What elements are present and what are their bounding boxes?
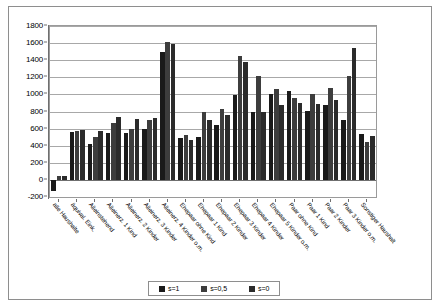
x-axis-category-label: Alleinerz. 2 Kinder (124, 201, 160, 243)
bar (225, 115, 230, 180)
bar (116, 117, 121, 180)
y-axis-tick-mark (44, 178, 47, 179)
bar (75, 131, 80, 180)
y-axis-tick-label: -200 (28, 192, 43, 201)
bar (274, 89, 279, 180)
bar (251, 112, 256, 180)
legend-item[interactable]: s=0,5 (201, 285, 227, 292)
x-axis-tick-mark (221, 199, 222, 202)
bar (147, 120, 152, 180)
bar (261, 112, 266, 180)
bar (160, 52, 165, 180)
bar (310, 94, 315, 180)
legend-swatch-icon (159, 286, 165, 292)
y-axis-tick-label: 400 (30, 140, 43, 149)
x-axis-tick-mark (185, 199, 186, 202)
bar (98, 131, 103, 180)
bar (62, 176, 67, 180)
y-axis-tick-mark (44, 144, 47, 145)
bar (279, 105, 284, 180)
y-axis-tick-mark (44, 76, 47, 77)
y-axis-tick-mark (44, 196, 47, 197)
bar (88, 144, 93, 180)
x-axis-tick-mark (112, 199, 113, 202)
gridline (50, 94, 376, 95)
y-axis-tick-mark (44, 59, 47, 60)
plot-area (49, 25, 377, 198)
y-axis-tick-mark (44, 42, 47, 43)
x-axis-tick-mark (94, 199, 95, 202)
x-axis-tick-mark (275, 199, 276, 202)
chart-legend: s=1s=0,5s=0 (148, 281, 280, 296)
x-axis-tick-mark (312, 199, 313, 202)
bar (93, 137, 98, 180)
x-axis-tick-mark (330, 199, 331, 202)
y-axis-tick-label: 1600 (26, 38, 43, 47)
bar (214, 125, 219, 180)
bar (365, 142, 370, 180)
legend-label: s=0,5 (210, 285, 227, 292)
x-axis-tick-mark (58, 199, 59, 202)
legend-label: s=1 (168, 285, 179, 292)
bar (341, 120, 346, 180)
y-axis-tick-label: 1200 (26, 72, 43, 81)
x-axis-category-label: Ehepaar 2 Kinder (215, 201, 250, 241)
bar (178, 138, 183, 180)
bar (269, 94, 274, 180)
bar (135, 119, 140, 180)
gridline (50, 197, 376, 198)
bar (298, 103, 303, 180)
bar (196, 137, 201, 180)
bar (142, 129, 147, 180)
y-axis-tick-label: 1400 (26, 55, 43, 64)
x-axis-tick-mark (366, 199, 367, 202)
bar (256, 76, 261, 179)
bar (352, 48, 357, 180)
bar (129, 129, 134, 180)
bar (292, 98, 297, 180)
bar (184, 135, 189, 179)
y-axis-tick-mark (44, 25, 47, 26)
bar (106, 133, 111, 180)
x-axis-tick-mark (203, 199, 204, 202)
bar (287, 91, 292, 180)
gridline (50, 77, 376, 78)
bar (70, 132, 75, 180)
chart-frame: 180016001400120010008006004002000-200 al… (8, 6, 432, 300)
legend-item[interactable]: s=1 (159, 285, 179, 292)
bar (233, 95, 238, 180)
bar (238, 56, 243, 180)
bar (189, 140, 194, 180)
bar (328, 88, 333, 179)
bar (323, 105, 328, 180)
y-axis-tick-label: 200 (30, 157, 43, 166)
legend-label: s=0 (258, 285, 269, 292)
legend-swatch-icon (249, 286, 255, 292)
bar (57, 176, 62, 179)
bar (316, 104, 321, 180)
gridline (50, 43, 376, 44)
y-axis-tick-label: 0 (39, 174, 43, 183)
x-axis-tick-mark (239, 199, 240, 202)
y-axis-tick-label: 800 (30, 106, 43, 115)
x-axis-tick-mark (257, 199, 258, 202)
x-axis-tick-mark (294, 199, 295, 202)
legend-item[interactable]: s=0 (249, 285, 269, 292)
y-axis-tick-label: 600 (30, 123, 43, 132)
bar (334, 100, 339, 180)
y-axis-tick-label: 1800 (26, 21, 43, 30)
bar (51, 180, 56, 191)
y-axis-tick-mark (44, 161, 47, 162)
legend-swatch-icon (201, 286, 207, 292)
bar (202, 112, 207, 180)
bar (111, 123, 116, 179)
x-axis-tick-mark (149, 199, 150, 202)
y-axis-tick-label: 1000 (26, 89, 43, 98)
y-axis-tick-mark (44, 110, 47, 111)
bar (80, 130, 85, 180)
bar (243, 62, 248, 180)
bar (153, 118, 158, 180)
bar (220, 109, 225, 180)
y-axis-tick-mark (44, 93, 47, 94)
bar (347, 76, 352, 180)
